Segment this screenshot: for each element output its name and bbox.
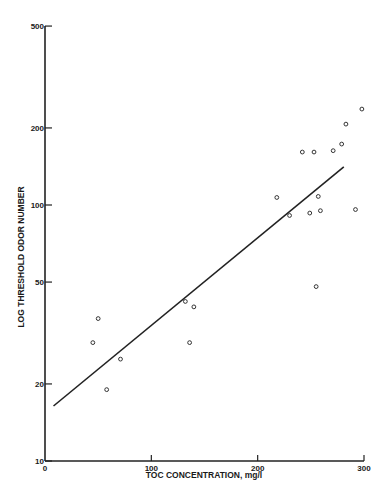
x-tick-label: 300 bbox=[357, 464, 371, 473]
data-point bbox=[192, 305, 196, 309]
y-tick-label: 50 bbox=[35, 278, 44, 287]
scatter-chart: 1020501002005000100200300 TOC CONCENTRAT… bbox=[0, 0, 387, 497]
x-tick-label: 0 bbox=[43, 464, 48, 473]
data-point bbox=[354, 208, 358, 212]
data-point bbox=[275, 196, 279, 200]
data-point bbox=[314, 285, 318, 289]
data-point bbox=[319, 209, 323, 213]
y-tick-label: 100 bbox=[31, 201, 45, 210]
data-point bbox=[344, 122, 348, 126]
data-point bbox=[340, 142, 344, 146]
data-point bbox=[96, 317, 100, 321]
data-point bbox=[183, 300, 187, 304]
y-axis-label: LOG THRESHOLD ODOR NUMBER bbox=[16, 186, 26, 327]
data-point bbox=[316, 195, 320, 199]
data-point bbox=[312, 150, 316, 154]
data-point bbox=[119, 357, 123, 361]
data-point bbox=[188, 341, 192, 345]
y-tick-label: 500 bbox=[31, 22, 45, 31]
y-tick-label: 200 bbox=[31, 124, 45, 133]
x-axis-label: TOC CONCENTRATION, mg/l bbox=[146, 470, 262, 480]
data-point bbox=[91, 341, 95, 345]
data-point bbox=[288, 214, 292, 218]
data-point bbox=[105, 388, 109, 392]
axes: 1020501002005000100200300 bbox=[31, 22, 372, 473]
y-tick-label: 20 bbox=[35, 380, 44, 389]
data-point bbox=[300, 150, 304, 154]
data-point bbox=[360, 107, 364, 111]
regression-line bbox=[54, 167, 344, 406]
plot-area bbox=[54, 107, 364, 406]
data-point bbox=[308, 211, 312, 215]
data-point bbox=[331, 149, 335, 153]
